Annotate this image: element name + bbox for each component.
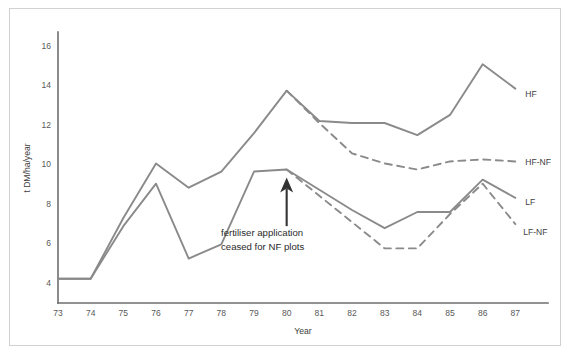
- line-chart: 16 14 12 10 8 6 4 t DM/ha/year 737475767…: [0, 0, 578, 362]
- y-tick-label: 4: [46, 278, 51, 288]
- annotation-fertiliser-ceased: [280, 178, 293, 227]
- x-tick-label: 78: [217, 308, 227, 318]
- y-tick-label: 10: [42, 159, 52, 169]
- x-axis-title: Year: [294, 326, 312, 336]
- x-tick-label: 75: [119, 308, 129, 318]
- y-tick-label: 6: [46, 238, 51, 248]
- series-label-hf-nf: HF-NF: [525, 157, 551, 167]
- x-tick-label: 87: [511, 308, 521, 318]
- x-tick-label: 82: [347, 308, 357, 318]
- y-tick-label: 14: [42, 80, 52, 90]
- y-tick-labels: 16 14 12 10 8 6 4: [42, 41, 52, 288]
- x-tick-label: 85: [445, 308, 455, 318]
- series-label-lf: LF: [525, 197, 535, 207]
- x-tick-labels: 737475767778798081828384858687: [53, 308, 520, 318]
- y-tick-label: 12: [42, 120, 52, 130]
- x-tick-label: 80: [282, 308, 292, 318]
- series-label-hf: HF: [525, 89, 536, 99]
- x-tick-label: 73: [53, 308, 63, 318]
- y-tick-label: 8: [46, 199, 51, 209]
- x-tick-label: 84: [413, 308, 423, 318]
- x-tick-label: 83: [380, 308, 390, 318]
- annotation-line-2: ceased for NF plots: [221, 241, 304, 252]
- x-tick-label: 81: [315, 308, 325, 318]
- x-tick-label: 76: [151, 308, 161, 318]
- y-axis-title: t DM/ha/year: [22, 143, 32, 192]
- x-tick-label: 77: [184, 308, 194, 318]
- x-tick-label: 79: [249, 308, 259, 318]
- series-label-lf-nf: LF-NF: [523, 227, 547, 237]
- annotation-line-1: fertiliser application: [221, 227, 303, 238]
- x-tick-label: 74: [86, 308, 96, 318]
- chart-figure: 16 14 12 10 8 6 4 t DM/ha/year 737475767…: [0, 0, 578, 362]
- series-labels: HFHF-NFLFLF-NF: [523, 89, 551, 238]
- x-tick-label: 86: [478, 308, 488, 318]
- y-tick-label: 16: [42, 41, 52, 51]
